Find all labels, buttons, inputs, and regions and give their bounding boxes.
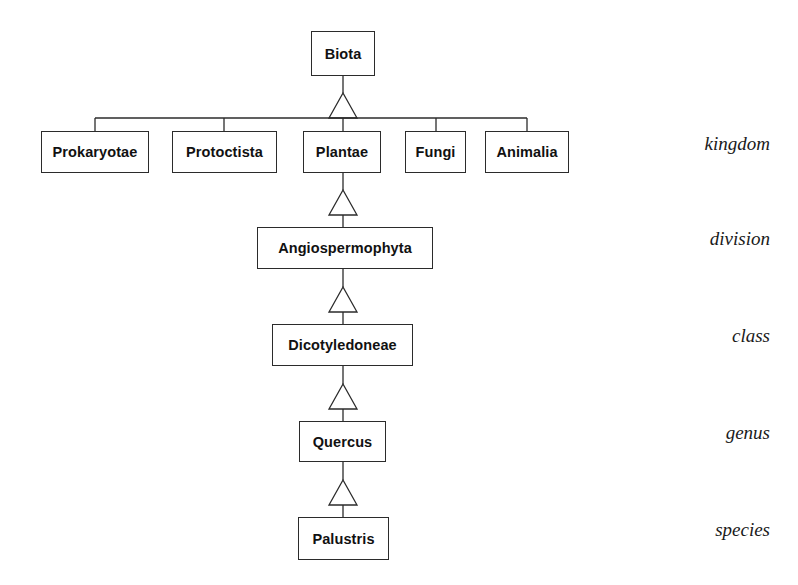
generalization-triangle-division: [329, 190, 357, 215]
taxon-label: Angiospermophyta: [278, 240, 412, 256]
taxon-label: Fungi: [416, 144, 456, 160]
taxon-label: Prokaryotae: [53, 144, 138, 160]
rank-label-division: division: [600, 228, 770, 250]
rank-label-kingdom: kingdom: [600, 133, 770, 155]
taxon-box-plantae[interactable]: Plantae: [303, 131, 381, 173]
taxon-box-angiospermophyta[interactable]: Angiospermophyta: [257, 227, 433, 269]
generalization-triangle-genus: [329, 384, 357, 409]
taxon-label: Protoctista: [186, 144, 263, 160]
taxon-box-prokaryotae[interactable]: Prokaryotae: [41, 131, 149, 173]
generalization-triangle-class: [329, 287, 357, 312]
rank-label-species: species: [600, 519, 770, 541]
taxon-box-protoctista[interactable]: Protoctista: [172, 131, 277, 173]
taxon-label: Palustris: [312, 531, 374, 547]
taxon-label: Animalia: [496, 144, 557, 160]
connector-layer: [0, 0, 798, 585]
taxon-box-animalia[interactable]: Animalia: [485, 131, 569, 173]
taxon-box-fungi[interactable]: Fungi: [405, 131, 466, 173]
taxon-box-quercus[interactable]: Quercus: [299, 421, 386, 462]
taxon-label: Plantae: [316, 144, 368, 160]
taxon-box-dicotyledoneae[interactable]: Dicotyledoneae: [272, 324, 413, 366]
taxon-box-biota[interactable]: Biota: [311, 31, 375, 76]
rank-label-genus: genus: [600, 422, 770, 444]
taxon-label: Dicotyledoneae: [288, 337, 397, 353]
taxonomy-diagram: Biota Prokaryotae Protoctista Plantae Fu…: [0, 0, 798, 585]
generalization-triangle-species: [329, 480, 357, 505]
taxon-label: Biota: [325, 46, 362, 62]
generalization-triangle-kingdom: [329, 93, 357, 118]
taxon-box-palustris[interactable]: Palustris: [298, 517, 389, 560]
rank-label-class: class: [600, 325, 770, 347]
taxon-label: Quercus: [313, 434, 373, 450]
